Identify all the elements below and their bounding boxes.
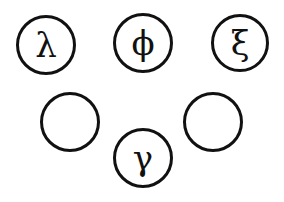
circle-gamma: γ: [113, 128, 173, 188]
circle-xi: ξ: [211, 14, 269, 72]
circle-empty-right: [183, 92, 243, 152]
gamma-symbol: γ: [133, 141, 153, 175]
circle-empty-left: [40, 92, 100, 152]
circle-lambda: λ: [16, 15, 76, 75]
circle-phi: ϕ: [113, 13, 173, 73]
phi-symbol: ϕ: [131, 26, 154, 60]
xi-symbol: ξ: [231, 26, 250, 60]
lambda-symbol: λ: [35, 28, 57, 62]
